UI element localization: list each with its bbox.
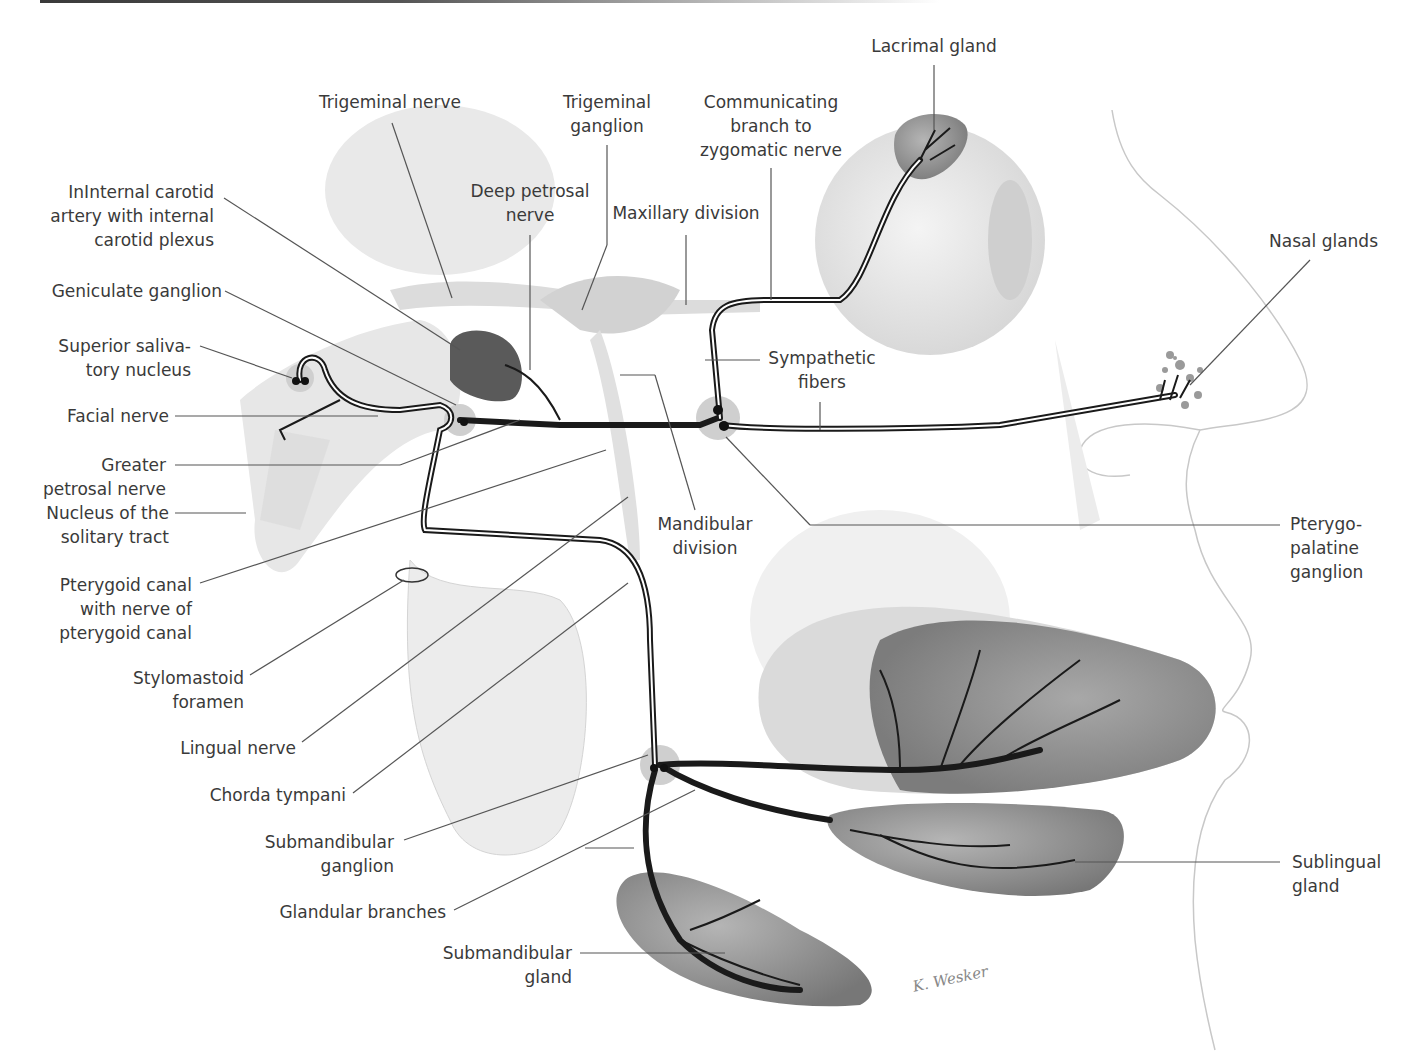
label-pterygopalatine-ganglion: Pterygo- palatine ganglion [1290,512,1400,584]
label-nasal-glands: Nasal glands [1230,229,1378,253]
label-lingual-nerve: Lingual nerve [150,736,296,760]
sublingual-gland-shape [827,803,1123,896]
label-stylomastoid-foramen: Stylomastoid foramen [100,666,244,714]
label-deep-petrosal-nerve: Deep petrosal nerve [455,179,605,227]
label-maxillary-division: Maxillary division [603,201,769,225]
nasal-glands-cluster [1156,351,1203,409]
label-internal-carotid: InInternal carotid artery with internal … [20,180,214,252]
label-mandibular-division: Mandibular division [645,512,765,560]
label-lacrimal-gland: Lacrimal gland [852,34,1016,58]
label-greater-petrosal-nerve: Greater petrosal nerve [20,453,166,501]
label-communicating-branch: Communicating branch to zygomatic nerve [686,90,856,162]
label-pterygoid-canal: Pterygoid canal with nerve of pterygoid … [20,573,192,645]
label-glandular-branches: Glandular branches [260,900,446,924]
label-submandibular-gland: Submandibular gland [420,941,572,989]
internal-carotid-artery-shape [450,331,522,402]
anatomy-figure: Lacrimal gland Trigeminal nerve Trigemin… [0,0,1414,1055]
label-nucleus-solitary-tract: Nucleus of the solitary tract [20,501,169,549]
label-facial-nerve: Facial nerve [20,404,169,428]
label-trigeminal-nerve: Trigeminal nerve [300,90,480,114]
label-trigeminal-ganglion: Trigeminal ganglion [540,90,674,138]
label-geniculate-ganglion: Geniculate ganglion [20,279,222,303]
label-superior-salivatory-nucleus: Superior saliva- tory nucleus [20,334,191,382]
label-submandibular-ganglion: Submandibular ganglion [240,830,394,878]
label-sympathetic-fibers: Sympathetic fibers [760,346,884,394]
label-chorda-tympani: Chorda tympani [180,783,346,807]
label-sublingual-gland: Sublingual gland [1292,850,1402,898]
